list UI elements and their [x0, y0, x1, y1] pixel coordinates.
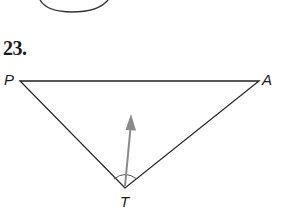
- vertex-label-p: P: [4, 71, 14, 88]
- circle-arc-fragment: [40, 0, 108, 12]
- bisector-arrow-shaft: [125, 128, 131, 186]
- arrow-head-icon: [126, 114, 137, 131]
- problem-number: 23.: [3, 37, 27, 60]
- vertex-label-a: A: [262, 71, 272, 88]
- triangle-pat: [20, 81, 259, 188]
- geometry-figure: [0, 0, 282, 215]
- vertex-label-t: T: [120, 193, 129, 210]
